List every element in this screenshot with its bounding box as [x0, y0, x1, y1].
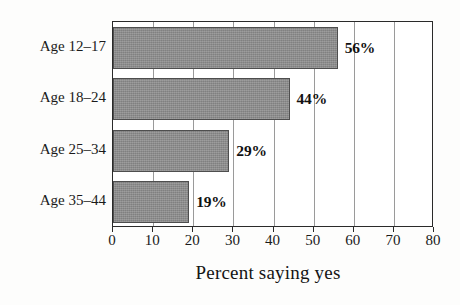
- plot-area: 56%44%29%19%: [112, 21, 433, 227]
- bar-row: 56%: [113, 27, 434, 69]
- bar-chart-figure: 56%44%29%19% Age 12–17Age 18–24Age 25–34…: [0, 0, 460, 305]
- tick-label-80: 80: [426, 232, 441, 249]
- bar-row: 44%: [113, 78, 434, 120]
- tick-label-70: 70: [385, 232, 400, 249]
- bar-value-label: 44%: [297, 90, 327, 108]
- tick-label-30: 30: [225, 232, 240, 249]
- bar: [113, 130, 229, 172]
- bar-row: 29%: [113, 130, 434, 172]
- x-axis-title-text: Percent saying yes: [119, 262, 340, 284]
- bar-value-label: 29%: [236, 141, 266, 159]
- category-label: Age 18–24: [6, 90, 106, 107]
- bar: [113, 27, 338, 69]
- tick-label-60: 60: [345, 232, 360, 249]
- bar-value-label: 19%: [196, 193, 226, 211]
- tick-label-20: 20: [185, 232, 200, 249]
- tick-label-50: 50: [305, 232, 320, 249]
- tick-label-40: 40: [265, 232, 280, 249]
- bar-row: 19%: [113, 181, 434, 223]
- category-label: Age 12–17: [6, 38, 106, 55]
- tick-label-10: 10: [145, 232, 160, 249]
- category-label: Age 35–44: [6, 193, 106, 210]
- tick-label-0: 0: [108, 232, 116, 249]
- bar: [113, 181, 189, 223]
- category-label: Age 25–34: [6, 141, 106, 158]
- x-axis-title: Percent saying yes: [0, 262, 460, 284]
- bar-value-label: 56%: [345, 38, 375, 56]
- bar: [113, 78, 290, 120]
